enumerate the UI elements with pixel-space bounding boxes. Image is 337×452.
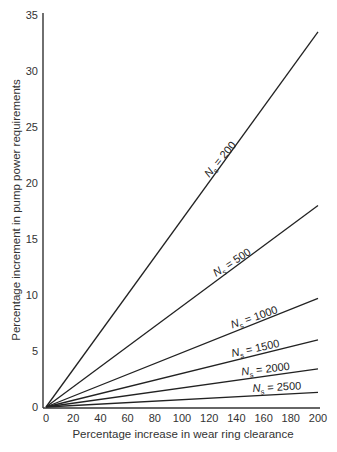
x-tick-label: 140 [227, 412, 245, 424]
x-tick-label: 200 [309, 412, 327, 424]
series-line-ns-2500 [46, 392, 318, 407]
series-labels: Ns = 200Ns = 500Ns = 1000Ns = 1500Ns = 2… [202, 139, 302, 397]
series-label: Ns = 500 [211, 245, 255, 281]
y-tick-label: 5 [32, 345, 38, 357]
x-tick-label: 40 [94, 412, 106, 424]
y-tick-label: 25 [26, 121, 38, 133]
x-tick-label: 160 [254, 412, 272, 424]
x-tick-label: 80 [149, 412, 161, 424]
y-axis-title: Percentage increment in pump power requi… [10, 79, 22, 341]
y-tick-label: 0 [32, 401, 38, 413]
y-tick-label: 15 [26, 233, 38, 245]
series-line-ns-200 [46, 32, 318, 407]
x-tick-label: 0 [43, 412, 49, 424]
y-tick-label: 20 [26, 177, 38, 189]
series-label: Ns = 1000 [229, 303, 280, 333]
x-tick-label: 20 [67, 412, 79, 424]
series-label: Ns = 2000 [241, 360, 291, 381]
x-tick-label: 60 [121, 412, 133, 424]
x-tick-labels: 020406080100120140160180200 [43, 412, 327, 424]
x-tick-label: 180 [282, 412, 300, 424]
chart: Ns = 200Ns = 500Ns = 1000Ns = 1500Ns = 2… [0, 0, 337, 452]
series-lines [46, 32, 318, 407]
x-axis-title: Percentage increase in wear ring clearan… [72, 428, 293, 440]
y-tick-label: 30 [26, 65, 38, 77]
y-tick-label: 35 [26, 9, 38, 21]
y-tick-label: 10 [26, 289, 38, 301]
series-line-ns-500 [46, 205, 318, 407]
x-tick-label: 100 [173, 412, 191, 424]
series-label: Ns = 1500 [230, 337, 281, 362]
y-tick-labels: 05101520253035 [26, 9, 38, 413]
series-label: Ns = 200 [202, 139, 241, 181]
x-tick-label: 120 [200, 412, 218, 424]
